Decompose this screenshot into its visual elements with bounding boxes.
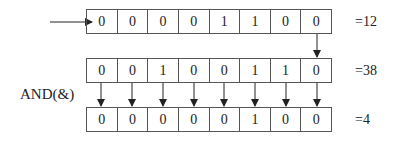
bit-cell: 0	[210, 59, 241, 82]
bit-cell: 0	[301, 10, 331, 33]
result-value-and-result: =4	[355, 107, 370, 132]
bit-cell: 0	[271, 108, 302, 131]
bit-cell: 1	[240, 108, 271, 131]
bit-cell: 1	[240, 59, 271, 82]
bit-cell: 1	[240, 10, 271, 33]
bit-cell: 0	[271, 10, 302, 33]
bit-cell: 0	[87, 108, 118, 131]
bit-cell: 1	[271, 59, 302, 82]
bit-cell: 0	[118, 59, 149, 82]
bit-row-operand-a: 0 0 0 0 1 1 0 0	[86, 9, 332, 34]
operation-label: AND(&)	[20, 86, 74, 103]
bit-arrows	[101, 83, 317, 106]
bit-cell: 0	[148, 10, 179, 33]
bit-cell: 0	[87, 59, 118, 82]
bit-cell: 0	[179, 59, 210, 82]
result-value-operand-a: =12	[355, 9, 377, 34]
bit-cell: 1	[148, 59, 179, 82]
bit-cell: 0	[179, 10, 210, 33]
bit-cell: 0	[301, 108, 331, 131]
bit-cell: 0	[210, 108, 241, 131]
bit-cell: 0	[118, 10, 149, 33]
bit-cell: 0	[118, 108, 149, 131]
bit-cell: 1	[210, 10, 241, 33]
bit-cell: 0	[179, 108, 210, 131]
bit-row-operand-b: 0 0 1 0 0 1 1 0	[86, 58, 332, 83]
bit-cell: 0	[301, 59, 331, 82]
bit-cell: 0	[148, 108, 179, 131]
bit-cell: 0	[87, 10, 118, 33]
bit-row-and-result: 0 0 0 0 0 1 0 0	[86, 107, 332, 132]
result-value-operand-b: =38	[355, 58, 377, 83]
